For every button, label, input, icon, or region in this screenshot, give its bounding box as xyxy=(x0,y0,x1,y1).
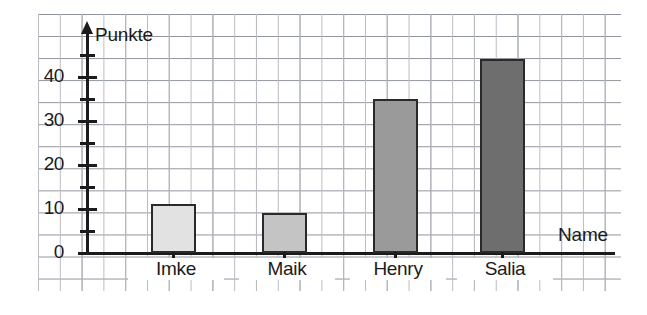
y-tick-label: 0 xyxy=(24,241,64,263)
y-tick-major xyxy=(78,252,97,255)
y-tick-minor xyxy=(80,186,95,189)
x-tick-label-maik: Maik xyxy=(239,258,335,280)
y-tick-major xyxy=(78,120,97,123)
y-tick-major xyxy=(78,208,97,211)
y-tick-label: 40 xyxy=(24,65,64,87)
y-tick-label: 30 xyxy=(24,109,64,131)
arrow-up-icon xyxy=(81,21,93,34)
y-tick-major xyxy=(78,164,97,167)
y-axis-title: Punkte xyxy=(95,24,153,46)
x-tick-label-imke: Imke xyxy=(128,258,224,280)
y-tick-minor xyxy=(80,98,95,101)
bar-chart-figure: Punkte Name 010203040 ImkeMaikHenrySalia xyxy=(0,0,647,315)
bar-maik xyxy=(262,213,307,253)
plot-area: Punkte Name 010203040 ImkeMaikHenrySalia xyxy=(0,0,647,315)
x-tick-label-henry: Henry xyxy=(350,258,446,280)
y-tick-label: 20 xyxy=(24,153,64,175)
bar-henry xyxy=(373,99,418,253)
x-axis-title: Name xyxy=(558,224,608,246)
bar-salia xyxy=(480,59,525,253)
y-tick-major xyxy=(78,76,97,79)
y-tick-minor xyxy=(80,230,95,233)
bar-imke xyxy=(151,204,196,253)
y-tick-minor xyxy=(80,54,95,57)
y-tick-label: 10 xyxy=(24,197,64,219)
y-tick-minor xyxy=(80,142,95,145)
x-tick-label-salia: Salia xyxy=(457,258,553,280)
